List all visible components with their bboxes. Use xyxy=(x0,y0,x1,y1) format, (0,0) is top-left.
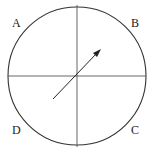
label-d: D xyxy=(12,123,21,137)
circle-diagram: A B C D xyxy=(0,0,157,154)
label-a: A xyxy=(12,16,21,30)
label-c: C xyxy=(131,123,139,137)
label-b: B xyxy=(131,16,139,30)
